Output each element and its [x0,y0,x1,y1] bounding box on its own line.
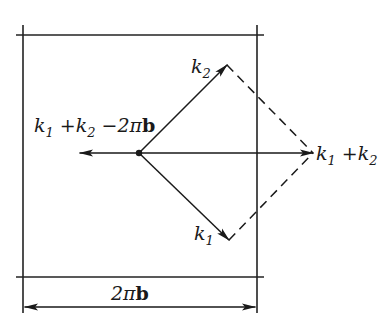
vectors [80,65,313,240]
label-umklapp: k1 +k2 −2πb [34,114,155,140]
vector-k2 [139,65,227,153]
dashed-edge-lower [229,153,313,240]
vector-k1 [139,153,229,240]
label-k1: k1 [194,222,214,248]
zone-frame [16,25,264,313]
dashed-edge-upper [227,65,313,153]
lattice-vector-diagram: 2πb k2 k1 k1 +k2 k1 +k2 −2πb [0,0,387,331]
dimension-2pib: 2πb [25,282,255,307]
label-k1-plus-k2: k1 +k2 [316,142,378,168]
label-k2: k2 [191,55,211,81]
origin-point [136,150,142,156]
dimension-label: 2πb [110,282,149,304]
